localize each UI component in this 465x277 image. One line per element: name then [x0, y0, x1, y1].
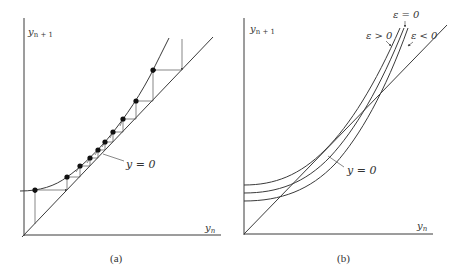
iterate-dot [133, 98, 138, 103]
x-axis-label-b: yn [416, 220, 428, 233]
arrow-eps-positive [386, 41, 391, 46]
panel-a: y = 0 yn + 1 yn (a) [20, 18, 221, 265]
curve-eps-negative [244, 28, 408, 201]
curve-label-leader-b [328, 156, 344, 167]
diagonal-line-a [22, 37, 213, 237]
iterate-dot [110, 129, 115, 134]
diagonal-line-b [244, 25, 447, 234]
curve-eps-positive [244, 28, 400, 185]
curve-eps-zero [244, 28, 404, 193]
curve-label-leader-a [103, 154, 124, 161]
iterate-dot [32, 187, 37, 192]
y-axis-label-a: yn + 1 [27, 26, 53, 39]
figure: y = 0 yn + 1 yn (a) ε = 0 ε > 0 ε < 0 y … [0, 0, 465, 277]
label-eps-zero: ε = 0 [393, 9, 420, 20]
label-eps-positive: ε > 0 [366, 30, 393, 41]
iterate-dot [120, 116, 125, 121]
arrow-eps-negative [408, 42, 413, 46]
curve-label-b: y = 0 [346, 164, 376, 177]
iterate-dot [95, 147, 100, 152]
iterate-dot [64, 174, 69, 179]
y-axis-label-b: yn + 1 [249, 23, 275, 36]
iterate-dot [102, 139, 107, 144]
iterate-dot [77, 163, 82, 168]
fixed-iterate-dots-a [32, 67, 155, 192]
curve-label-a: y = 0 [125, 158, 155, 171]
panel-b: ε = 0 ε > 0 ε < 0 y = 0 yn + 1 yn (b) [244, 9, 447, 265]
label-eps-negative: ε < 0 [411, 30, 438, 41]
x-axis-label-a: yn [204, 222, 216, 235]
caption-a: (a) [110, 252, 123, 265]
cobweb-steps-a [35, 39, 182, 224]
caption-b: (b) [337, 252, 350, 265]
iterate-dot [87, 155, 92, 160]
iterate-dot [150, 67, 155, 72]
